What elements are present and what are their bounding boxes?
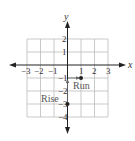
svg-text:2: 2 xyxy=(62,34,67,44)
svg-text:3: 3 xyxy=(106,66,111,76)
svg-text:1: 1 xyxy=(79,66,84,76)
svg-text:−2: −2 xyxy=(34,66,44,76)
y-axis-up-arrow-icon xyxy=(65,21,70,28)
point-0-neg3 xyxy=(66,102,70,106)
svg-text:2: 2 xyxy=(92,66,97,76)
svg-text:−4: −4 xyxy=(58,112,68,122)
rise-label: Rise xyxy=(41,93,59,104)
x-axis-label: x xyxy=(127,59,133,70)
x-axis-right-arrow-icon xyxy=(119,63,126,68)
y-axis-down-arrow-icon xyxy=(65,127,70,134)
svg-text:−2: −2 xyxy=(58,86,68,96)
svg-text:−3: −3 xyxy=(21,66,31,76)
y-tick-labels: 2 1 −1 −2 −3 −4 xyxy=(58,34,68,122)
coordinate-plane: y x −3 −2 −1 1 2 3 2 1 −1 −2 −3 −4 Run R… xyxy=(0,0,135,141)
svg-text:−1: −1 xyxy=(58,73,68,83)
svg-text:1: 1 xyxy=(62,47,67,57)
run-label: Run xyxy=(73,80,90,91)
x-axis-left-arrow-icon xyxy=(9,63,16,68)
y-axis-label: y xyxy=(63,11,69,22)
svg-text:−1: −1 xyxy=(48,66,58,76)
